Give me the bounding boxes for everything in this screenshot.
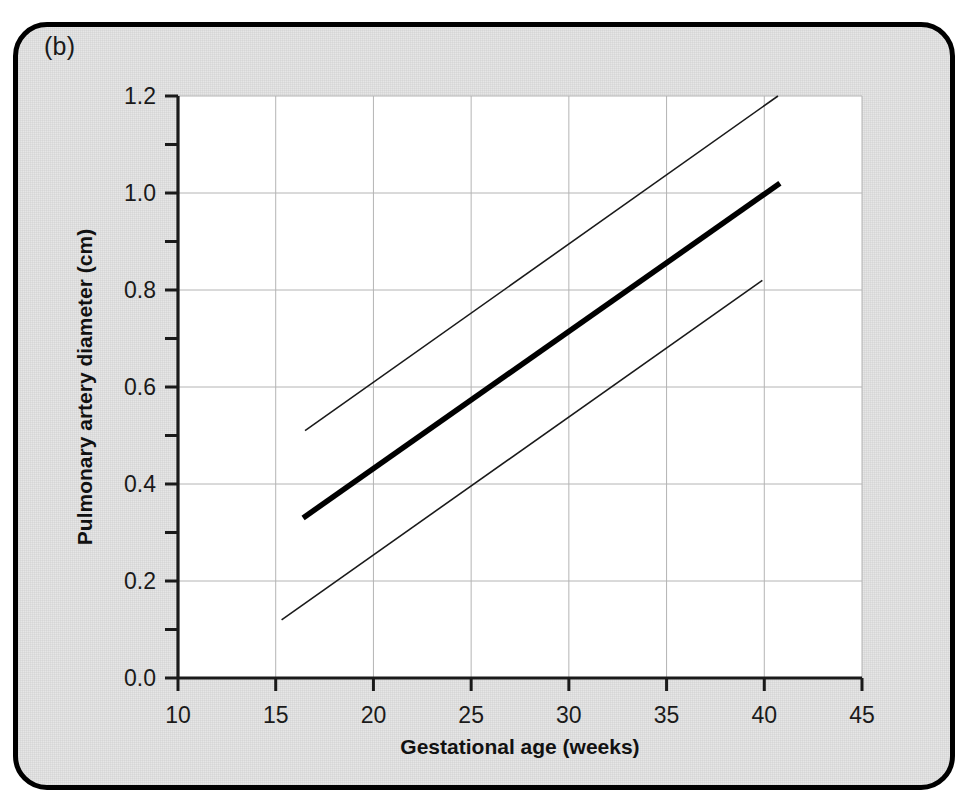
y-tick-label: 0.6 bbox=[124, 374, 156, 400]
figure-root: (b) 0.00.20.40.60.81.01.2 10152025303540… bbox=[0, 0, 970, 811]
x-tick-label: 15 bbox=[263, 702, 289, 728]
x-tick-label: 25 bbox=[458, 702, 484, 728]
x-tick-label: 35 bbox=[654, 702, 680, 728]
y-tick-label: 0.8 bbox=[124, 277, 156, 303]
y-axis-ticks bbox=[165, 96, 178, 678]
x-axis-ticks bbox=[178, 678, 862, 691]
x-tick-label: 40 bbox=[751, 702, 777, 728]
x-tick-label: 30 bbox=[556, 702, 582, 728]
y-tick-label: 0.0 bbox=[124, 665, 156, 691]
y-axis-tick-labels: 0.00.20.40.60.81.01.2 bbox=[124, 83, 156, 691]
x-tick-label: 45 bbox=[849, 702, 875, 728]
x-tick-label: 10 bbox=[165, 702, 191, 728]
y-tick-label: 0.2 bbox=[124, 568, 156, 594]
x-axis-title: Gestational age (weeks) bbox=[400, 735, 639, 758]
x-tick-label: 20 bbox=[361, 702, 387, 728]
y-tick-label: 0.4 bbox=[124, 471, 156, 497]
x-axis-tick-labels: 1015202530354045 bbox=[165, 702, 875, 728]
y-tick-label: 1.2 bbox=[124, 83, 156, 109]
y-tick-label: 1.0 bbox=[124, 180, 156, 206]
y-axis-title: Pulmonary artery diameter (cm) bbox=[73, 229, 96, 545]
chart-plot: 0.00.20.40.60.81.01.2 1015202530354045 G… bbox=[0, 0, 970, 811]
